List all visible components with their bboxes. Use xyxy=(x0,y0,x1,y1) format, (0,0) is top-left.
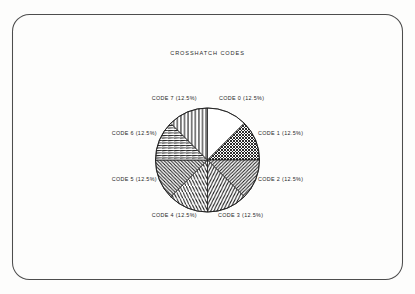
scanned-document-page: CROSSHATCH CODES CODE 0 (12.5%) CODE 1 (… xyxy=(0,0,415,294)
pie-chart xyxy=(0,0,415,294)
pie-label-code-0: CODE 0 (12.5%) xyxy=(219,95,264,101)
chart-title: CROSSHATCH CODES xyxy=(0,50,415,56)
pie-label-code-6: CODE 6 (12.5%) xyxy=(112,130,157,136)
pie-label-code-1: CODE 1 (12.5%) xyxy=(258,130,303,136)
pie-label-code-7: CODE 7 (12.5%) xyxy=(152,95,197,101)
pie-label-code-4: CODE 4 (12.5%) xyxy=(152,212,197,218)
pie-label-code-5: CODE 5 (12.5%) xyxy=(112,176,157,182)
pie-label-code-3: CODE 3 (12.5%) xyxy=(218,212,263,218)
pie-slices xyxy=(156,108,260,212)
pie-label-code-2: CODE 2 (12.5%) xyxy=(258,176,303,182)
